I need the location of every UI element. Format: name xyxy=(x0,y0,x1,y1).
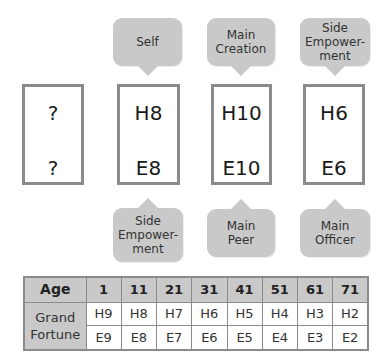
heaven-stem-cell: H4 xyxy=(262,302,297,326)
heaven-stem-row: Grand Fortune H9 H8 H7 H6 H5 H4 H3 H2 xyxy=(24,302,368,326)
bubble-pointer xyxy=(138,66,158,76)
grand-fortune-label: Grand Fortune xyxy=(24,302,86,350)
age-cell: 51 xyxy=(262,277,297,302)
top-label-side-empowerment: Side Empower- ment xyxy=(300,18,370,66)
earth-branch-cell: E7 xyxy=(157,326,192,350)
age-cell: 41 xyxy=(227,277,262,302)
top-label-self: Self xyxy=(113,18,182,66)
heaven-stem-cell: H2 xyxy=(333,302,368,326)
bubble-pointer xyxy=(231,66,251,76)
bottom-label-main-officer-text: Main Officer xyxy=(315,219,355,247)
heaven-stem: H8 xyxy=(120,101,177,125)
age-cell: 31 xyxy=(192,277,227,302)
age-row: Age 1 11 21 31 41 51 61 71 xyxy=(24,277,368,302)
heaven-stem-cell: H6 xyxy=(192,302,227,326)
bottom-label-main-officer: Main Officer xyxy=(300,209,370,257)
bubble-pointer xyxy=(138,198,158,208)
earth-branch-cell: E8 xyxy=(121,326,156,350)
age-cell: 61 xyxy=(298,277,333,302)
grand-fortune-label-text: Grand Fortune xyxy=(30,310,80,342)
heaven-stem-cell: H7 xyxy=(157,302,192,326)
age-header: Age xyxy=(24,277,86,302)
top-label-main-creation: Main Creation xyxy=(207,18,275,66)
grand-fortune-table: Age 1 11 21 31 41 51 61 71 Grand Fortune… xyxy=(23,276,369,351)
pillar-unknown: ? ? xyxy=(22,84,84,185)
bottom-label-side-empowerment: Side Empower- ment xyxy=(113,208,183,262)
earth-branch: E8 xyxy=(120,156,177,180)
bottom-label-main-peer: Main Peer xyxy=(207,209,275,257)
age-cell: 21 xyxy=(157,277,192,302)
heaven-stem-cell: H5 xyxy=(227,302,262,326)
heaven-stem: H10 xyxy=(214,101,269,125)
earth-branch: ? xyxy=(25,156,81,180)
top-label-side-empowerment-text: Side Empower- ment xyxy=(305,21,365,63)
age-cell: 71 xyxy=(333,277,368,302)
earth-branch-cell: E2 xyxy=(333,326,368,350)
top-label-self-text: Self xyxy=(136,35,159,49)
pillar-main-creation: H10 E10 xyxy=(211,84,272,185)
heaven-stem-cell: H3 xyxy=(298,302,333,326)
bubble-pointer xyxy=(231,199,251,209)
bubble-pointer xyxy=(325,66,345,76)
age-cell: 11 xyxy=(121,277,156,302)
earth-branch-cell: E5 xyxy=(227,326,262,350)
earth-branch-cell: E4 xyxy=(262,326,297,350)
heaven-stem: ? xyxy=(25,101,81,125)
heaven-stem-cell: H9 xyxy=(86,302,121,326)
bottom-label-side-empowerment-text: Side Empower- ment xyxy=(118,214,178,256)
pillar-self: H8 E8 xyxy=(117,84,180,185)
earth-branch-cell: E6 xyxy=(192,326,227,350)
earth-branch-cell: E9 xyxy=(86,326,121,350)
pillar-side-empowerment: H6 E6 xyxy=(303,84,365,185)
bubble-pointer xyxy=(325,199,345,209)
heaven-stem: H6 xyxy=(306,101,362,125)
earth-branch: E6 xyxy=(306,156,362,180)
top-label-main-creation-text: Main Creation xyxy=(216,28,267,56)
earth-branch-cell: E3 xyxy=(298,326,333,350)
earth-branch: E10 xyxy=(214,156,269,180)
heaven-stem-cell: H8 xyxy=(121,302,156,326)
age-cell: 1 xyxy=(86,277,121,302)
bottom-label-main-peer-text: Main Peer xyxy=(227,219,256,247)
